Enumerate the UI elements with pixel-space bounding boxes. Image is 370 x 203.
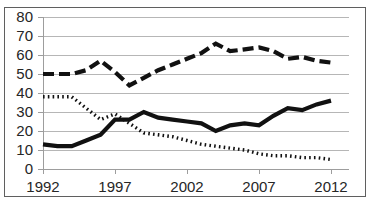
gridlines [43, 18, 349, 170]
y-axis-tick-label: 30 [16, 103, 33, 120]
y-axis-tick-label: 40 [16, 84, 33, 101]
y-axis-tick-label: 50 [16, 65, 33, 82]
y-axis-tick-label: 10 [16, 141, 33, 158]
data-series [43, 44, 331, 160]
line-chart: 01020304050607080 19921997200220072012 [0, 0, 370, 203]
x-axis-tick-labels: 19921997200220072012 [26, 178, 347, 195]
x-axis-tick-label: 1997 [98, 178, 131, 195]
x-axis-tick-label: 2012 [314, 178, 347, 195]
y-axis-tick-label: 70 [16, 27, 33, 44]
y-axis-tick-label: 60 [16, 46, 33, 63]
series-line-dashed-series [43, 44, 331, 86]
x-axis-tick-label: 2007 [242, 178, 275, 195]
x-axis-tick-label: 2002 [170, 178, 203, 195]
y-axis-tick-label: 80 [16, 8, 33, 25]
y-axis-tick-label: 0 [25, 160, 33, 177]
chart-canvas: 01020304050607080 19921997200220072012 [0, 0, 370, 203]
y-axis-tick-labels: 01020304050607080 [16, 8, 33, 177]
y-axis-tick-label: 20 [16, 122, 33, 139]
x-axis-tick-label: 1992 [26, 178, 59, 195]
